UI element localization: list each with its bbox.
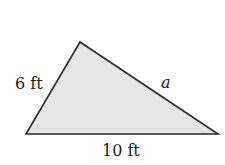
right-side-label: a — [161, 73, 171, 92]
triangle-shape — [26, 42, 218, 134]
base-label: 10 ft — [102, 141, 140, 160]
left-side-label: 6 ft — [15, 74, 43, 93]
triangle-diagram: 6 ft a 10 ft — [0, 0, 225, 165]
